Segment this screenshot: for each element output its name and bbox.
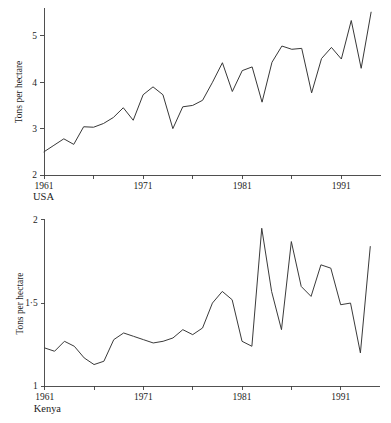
usa-x-tick-group: [44, 175, 341, 179]
kenya-y-axis-title: Tons per hectare: [15, 272, 25, 334]
y-tick-label: 4: [32, 78, 37, 88]
y-tick-label: 5: [32, 31, 37, 41]
usa-panel-caption: USA: [33, 191, 54, 202]
y-tick-label: 2: [33, 215, 38, 225]
usa-y-tick-label-group: 2345: [32, 31, 37, 180]
kenya-x-tick-label-group: 1961197119811991: [35, 392, 350, 402]
usa-axes: [44, 8, 381, 175]
x-tick-label: 1981: [233, 181, 252, 191]
kenya-data-line: [45, 228, 371, 364]
x-tick-label: 1961: [35, 181, 54, 191]
kenya-y-tick-group: [41, 220, 45, 386]
figure-container: 2345 1961197119811991 Tons per hectare U…: [0, 0, 391, 423]
y-tick-label: 3: [32, 124, 37, 134]
x-tick-label: 1971: [134, 392, 153, 402]
y-tick-label: 2: [32, 170, 37, 180]
x-tick-label: 1961: [35, 392, 54, 402]
chart-panel-usa: 2345 1961197119811991 Tons per hectare U…: [0, 0, 391, 211]
y-tick-label: 1: [33, 381, 38, 391]
y-tick-label: 1·5: [25, 298, 38, 308]
x-tick-label: 1991: [332, 181, 351, 191]
chart-panel-kenya: 11·52 1961197119811991 Tons per hectare …: [0, 211, 391, 422]
kenya-x-tick-group: [45, 386, 341, 390]
x-tick-label: 1991: [331, 392, 350, 402]
usa-chart-svg: 2345 1961197119811991 Tons per hectare U…: [0, 0, 391, 211]
x-tick-label: 1981: [233, 392, 252, 402]
kenya-panel-caption: Kenya: [34, 403, 62, 414]
usa-y-tick-group: [40, 36, 44, 175]
kenya-chart-svg: 11·52 1961197119811991 Tons per hectare …: [0, 211, 391, 422]
usa-data-line: [44, 12, 371, 152]
kenya-y-tick-label-group: 11·52: [25, 215, 38, 391]
x-tick-label: 1971: [134, 181, 153, 191]
usa-y-axis-title: Tons per hectare: [14, 61, 24, 124]
usa-x-tick-label-group: 1961197119811991: [35, 181, 352, 191]
